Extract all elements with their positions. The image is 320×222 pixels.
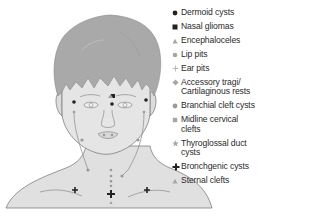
thyroglossal-marker [110, 175, 113, 178]
triangle-icon [172, 36, 181, 45]
legend-item-lip-pits: Lip pits [172, 50, 276, 59]
branchial-cyst-marker [86, 168, 89, 171]
legend-item-ear-pits: Ear pits [172, 64, 276, 73]
hair [54, 15, 161, 96]
square-icon [172, 115, 181, 124]
branchial-cyst-marker [80, 138, 83, 141]
legend-item-accessory-tragi: Accessory tragi/ Cartilaginous rests [172, 78, 276, 97]
circle-icon [172, 50, 181, 59]
right-ear [150, 92, 156, 116]
branchial-cyst-marker [120, 174, 123, 177]
legend-item-encephaloceles: Encephaloceles [172, 36, 276, 45]
legend-item-midline-cervical-clefts: Midline cervical clefts [172, 115, 276, 134]
legend: Dermoid cysts Nasal gliomas Encephalocel… [172, 8, 276, 190]
ear-pit-marker [143, 111, 146, 114]
lip-pit-marker [111, 134, 114, 137]
cross-icon [172, 162, 181, 171]
dermoid-cyst-marker [110, 102, 114, 106]
dermoid-cyst-marker [144, 98, 148, 102]
branchial-cyst-marker [136, 138, 139, 141]
circle-grey-icon [172, 101, 181, 110]
legend-item-dermoid-cysts: Dermoid cysts [172, 8, 276, 17]
filled-circle-icon [172, 8, 181, 17]
filled-square-icon [172, 22, 181, 31]
diamond-icon [172, 78, 181, 87]
lip-pit-marker [103, 134, 106, 137]
ear-pit-marker [73, 111, 76, 114]
star-icon [172, 139, 181, 148]
left-ear [56, 92, 62, 116]
thyroglossal-marker [110, 169, 113, 172]
thyroglossal-marker [110, 185, 113, 188]
plus-icon [172, 64, 181, 73]
legend-item-nasal-gliomas: Nasal gliomas [172, 22, 276, 31]
legend-item-sternal-clefts: Sternal clefts [172, 176, 276, 185]
legend-item-branchial-cleft-cysts: Branchial cleft cysts [172, 101, 276, 110]
dermoid-cyst-marker [72, 100, 76, 104]
triangle-icon [172, 176, 181, 185]
legend-item-bronchogenic-cysts: Bronchgenic cysts [172, 162, 276, 171]
midline-cleft-marker [110, 180, 112, 182]
legend-item-thyroglossal-duct-cysts: Thyroglossal duct cysts [172, 139, 276, 158]
